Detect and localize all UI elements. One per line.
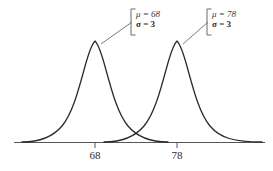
leader-line-2 bbox=[183, 22, 208, 44]
normal-curve-mu-78 bbox=[104, 41, 262, 142]
annotation-1-sigma: σ = 3 bbox=[136, 20, 160, 29]
leader-line-1 bbox=[101, 22, 132, 44]
annotation-1-mu: μ = 68 bbox=[136, 10, 160, 19]
annotation-curve-2: μ = 78 σ = 3 bbox=[212, 10, 236, 30]
normal-curve-mu-68 bbox=[22, 41, 168, 142]
x-tick-label-68: 68 bbox=[80, 149, 110, 161]
annotation-2-sigma: σ = 3 bbox=[212, 20, 236, 29]
normal-distribution-figure: μ = 68 σ = 3 μ = 78 σ = 3 68 78 bbox=[0, 0, 273, 171]
annotation-curve-1: μ = 68 σ = 3 bbox=[136, 10, 160, 30]
x-tick-label-78: 78 bbox=[162, 149, 192, 161]
annotation-2-mu: μ = 78 bbox=[212, 10, 236, 19]
